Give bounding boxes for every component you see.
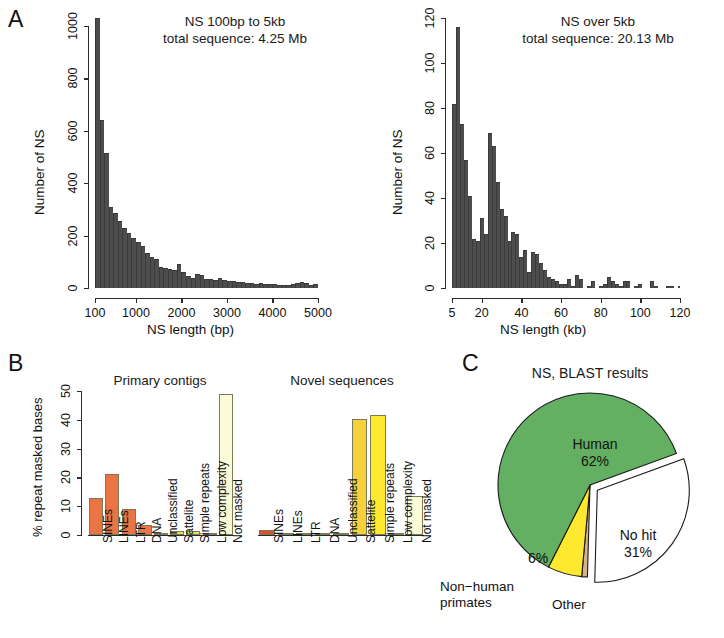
x-axis-tick [521,298,522,303]
category-axis-label: LINEs [291,510,305,543]
x-axis-line [95,298,318,299]
category-axis-label: Sattelite [182,500,196,543]
y-axis-tick-label: 120 [423,8,437,29]
x-axis-tick [452,298,453,303]
category-axis-label: LINEs [117,510,131,543]
pie-chart-title: NS, BLAST results [500,365,680,383]
y-axis-tick-label: 200 [66,225,80,246]
panelb-y-axis-tick-label: 0 [59,532,73,539]
x-axis-tick [136,298,137,303]
y-axis-tick-label: 0 [423,285,437,292]
y-axis-tick-label: 20 [423,236,437,250]
x-axis-tick-label: 100 [630,306,651,320]
x-axis-tick [640,298,641,303]
category-axis-label: Unclassified [166,478,180,543]
y-axis-tick [84,183,89,184]
x-axis-tick [680,298,681,303]
panel-c-blast-pie: NS, BLAST results Human 62% No hit 31% 6… [440,345,724,638]
x-axis-tick [601,298,602,303]
y-axis-tick [84,26,89,27]
x-axis-tick-label: 80 [594,306,608,320]
panelb-y-axis-tick [77,420,82,421]
y-axis-tick [84,131,89,132]
x-axis-tick-label: 1000 [122,306,150,320]
panel-b-repeat-masking: % repeat masked bases Primary contigs No… [0,345,440,638]
histogram-bar [638,284,642,289]
panelb-y-axis-tick-label: 20 [59,470,73,484]
category-axis-label: Not masked [231,479,245,543]
x-axis-tick-label: 5000 [304,306,332,320]
category-axis-label: LTR [134,521,148,543]
x-axis-tick [561,298,562,303]
y-axis-tick-label: 800 [66,68,80,89]
y-axis-tick [441,153,446,154]
category-axis-label: Simple repeats [198,463,212,543]
y-axis-tick [441,288,446,289]
panelb-y-axis-tick [77,391,82,392]
pie-label-human: Human 62% [550,436,640,470]
novel-sequences-title: Novel sequences [252,373,432,390]
pie-label-no-hit: No hit 31% [598,527,678,561]
x-axis-tick [95,298,96,303]
panelb-y-axis-line [81,391,82,535]
x-axis-tick-label: 3000 [213,306,241,320]
category-axis-label: Unclassified [346,478,360,543]
y-axis-tick-label: 80 [423,101,437,115]
category-axis-label: SINEs [101,509,115,543]
y-axis-tick-label: 400 [66,173,80,194]
x-axis-tick-label: 40 [514,306,528,320]
panelb-y-axis-tick [77,477,82,478]
y-axis-tick-label: 40 [423,191,437,205]
hist1-y-axis-title: Number of NS [32,129,47,215]
hist1-x-axis-title: NS length (bp) [147,322,234,337]
panelb-y-axis-tick [77,506,82,507]
histogram-bar [678,286,680,288]
y-axis-tick-label: 60 [423,146,437,160]
histogram-bar [670,286,674,288]
category-axis-label: Low complexity [215,461,229,543]
category-axis-label: Simple repeats [383,463,397,543]
histogram-bar [626,281,630,288]
y-axis-tick [441,18,446,19]
primary-contigs-title: Primary contigs [80,373,240,390]
figure-root: A NS 100bp to 5kb total sequence: 4.25 M… [0,0,724,638]
y-axis-line [88,26,89,288]
category-axis-label: DNA [150,518,164,543]
panelb-y-axis-title: % repeat masked bases [30,398,45,537]
hist1-plot-area [95,18,318,288]
y-axis-tick-label: 1000 [66,12,80,40]
category-axis-label: Not masked [420,479,434,543]
y-axis-tick [441,243,446,244]
histogram-bar [654,286,658,288]
hist2-y-axis-title: Number of NS [390,129,405,215]
x-axis-tick [227,298,228,303]
y-axis-tick-label: 600 [66,120,80,141]
y-axis-tick-label: 0 [66,285,80,292]
category-axis-label: Low complexity [401,461,415,543]
x-axis-tick [181,298,182,303]
panelb-y-axis-tick-label: 30 [59,442,73,456]
x-axis-tick [482,298,483,303]
x-axis-tick-label: 60 [554,306,568,320]
histogram-bar [313,284,318,288]
x-axis-tick-label: 5 [449,306,456,320]
pie-label-nonhuman-primates: Non−human primates [440,579,558,611]
y-axis-tick [441,198,446,199]
category-axis-label: DNA [328,518,342,543]
panelb-y-axis-tick [77,449,82,450]
pie-label-other: Other [552,597,622,613]
y-axis-tick [441,63,446,64]
y-axis-tick-label: 100 [423,53,437,74]
histogram-bar [579,279,583,288]
y-axis-tick [84,236,89,237]
x-axis-tick-label: 20 [475,306,489,320]
x-axis-tick-label: 100 [85,306,106,320]
panelb-y-axis-tick-label: 10 [59,499,73,513]
panelb-y-axis-tick-label: 40 [59,413,73,427]
hist2-plot-area [452,18,680,288]
category-axis-label: LTR [309,521,323,543]
histogram-bar [591,281,595,288]
panelb-y-axis-tick-label: 50 [59,384,73,398]
y-axis-tick [441,108,446,109]
blast-pie-chart [478,385,718,600]
